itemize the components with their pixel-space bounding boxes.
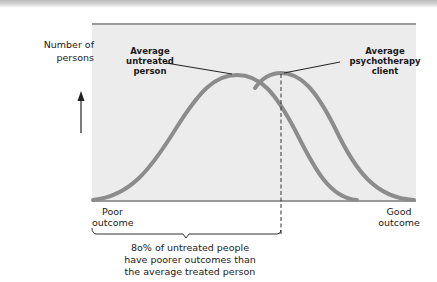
up-arrow-icon [78, 91, 85, 101]
treated-distribution-curve [255, 73, 414, 200]
untreated-label: Average untreated person [120, 46, 180, 76]
caption-line3: the average treated person [100, 266, 280, 278]
y-axis-label-line1: Number of [14, 38, 94, 51]
y-axis-label: Number of persons [14, 38, 94, 64]
good-outcome-label: Good outcome [370, 206, 428, 228]
untreated-label-line3: person [120, 66, 180, 76]
psychotherapy-label: Average psychotherapy client [345, 46, 425, 76]
untreated-label-line1: Average [120, 46, 180, 56]
y-axis-label-line2: persons [14, 51, 94, 64]
psychotherapy-label-line2: psychotherapy [345, 56, 425, 66]
psychotherapy-label-line1: Average [345, 46, 425, 56]
good-outcome-line2: outcome [370, 217, 428, 228]
caption: 8o% of untreated people have poorer outc… [100, 242, 280, 278]
untreated-label-line2: untreated [120, 56, 180, 66]
bracket [92, 228, 281, 238]
psychotherapy-label-line3: client [345, 66, 425, 76]
caption-line1: 8o% of untreated people [100, 242, 280, 254]
poor-outcome-label: Poor outcome [92, 206, 150, 228]
therapy-leader-line [284, 62, 340, 73]
poor-outcome-line1: Poor [100, 206, 150, 217]
caption-line2: have poorer outcomes than [100, 254, 280, 266]
poor-outcome-line2: outcome [92, 217, 150, 228]
untreated-distribution-curve [93, 75, 357, 200]
good-outcome-line1: Good [370, 206, 428, 217]
